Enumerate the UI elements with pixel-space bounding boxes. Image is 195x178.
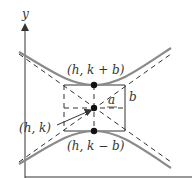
bottom-vertex-point	[91, 128, 97, 134]
top-vertex-label: (h, k + b)	[67, 63, 125, 77]
center-pointer-arrow	[57, 111, 89, 125]
a-label: a	[108, 93, 115, 107]
hyperbola-diagram: y (h, k + b) (h, k) (h, k − b) a b	[0, 0, 195, 178]
y-axis-label: y	[21, 7, 29, 21]
top-vertex-point	[91, 82, 97, 88]
bottom-vertex-label: (h, k − b)	[67, 139, 125, 153]
b-label: b	[129, 90, 137, 104]
center-point	[91, 105, 97, 111]
center-label: (h, k)	[19, 121, 51, 135]
